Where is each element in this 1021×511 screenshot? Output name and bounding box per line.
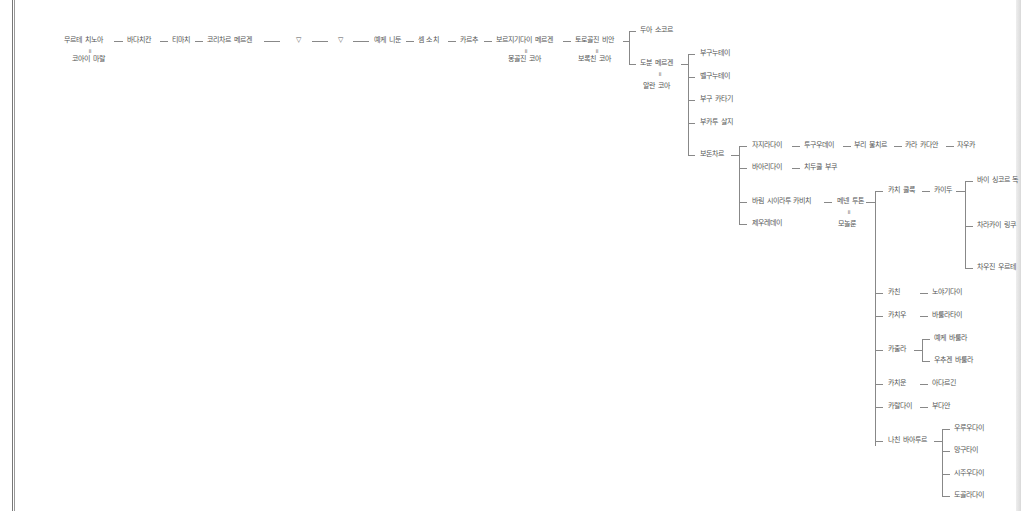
person-buri-bulchir: 부리 불치르 <box>854 141 887 150</box>
connector <box>914 350 922 351</box>
person-spouse-monolun: 모놀룬 <box>838 220 856 229</box>
person-dogoladai: 도골라다이 <box>954 491 985 500</box>
connector <box>922 339 930 340</box>
connector <box>739 168 747 169</box>
connector <box>965 226 973 227</box>
marriage-symbol: ॥ <box>847 208 851 215</box>
connector <box>484 41 492 42</box>
page-edge <box>1016 0 1021 511</box>
person-khara-khadaan: 카라 카다안 <box>905 141 938 150</box>
connector <box>792 146 800 147</box>
connector <box>731 155 739 156</box>
connector <box>965 181 973 182</box>
connector <box>920 293 928 294</box>
connector <box>956 191 965 192</box>
connector <box>824 202 832 203</box>
connector <box>920 407 928 408</box>
person-charakhai-lingqu: 차라카이 링쿠 <box>977 221 1016 230</box>
person-menen-tudun: 메넨 투톤 <box>837 197 864 206</box>
connector <box>934 441 942 442</box>
connector <box>942 474 950 475</box>
person-khachiun: 카치운 <box>888 379 906 388</box>
person-sem-sochi: 셈 소치 <box>418 36 439 45</box>
connector <box>114 41 123 42</box>
connector <box>792 168 800 169</box>
bracket <box>688 54 689 155</box>
bracket <box>629 31 630 64</box>
person-karchu: 카르추 <box>460 36 478 45</box>
person-shijuudai: 시주우다이 <box>954 469 985 478</box>
person-jaukha: 자우카 <box>957 141 975 150</box>
connector <box>875 384 883 385</box>
person-chidukhul-bukha: 치두쿨 부쿠 <box>804 163 837 172</box>
person-adargin: 아다르긴 <box>932 379 956 388</box>
connector <box>353 41 369 42</box>
bracket <box>922 339 923 361</box>
person-bugu-khatagi: 부구 카타기 <box>700 95 733 104</box>
connector <box>942 451 950 452</box>
person-korichar-mergen: 코리차르 메르겐 <box>207 36 252 45</box>
person-bai-shingkhor-dogshin: 바이 싱코르 독 <box>977 176 1018 185</box>
person-belgunutei: 벨구누테이 <box>700 72 731 81</box>
person-bukhatu-salji: 부카투 살지 <box>700 118 733 127</box>
connector <box>739 202 747 203</box>
person-khachula: 카출라 <box>888 345 906 354</box>
person-nachin-baatur: 나친 바아투르 <box>888 436 927 445</box>
person-khachiu: 카치우 <box>888 311 906 320</box>
person-dobun-mergen: 도분 메르겐 <box>640 59 673 68</box>
person-murte-chinoa: 무르테 치노아 <box>64 36 103 45</box>
connector <box>688 54 695 55</box>
person-dua-sokhor: 두아 소코르 <box>640 26 673 35</box>
connector <box>160 41 168 42</box>
person-tuguudai: 투구우데이 <box>804 141 835 150</box>
person-uchugen-barula: 우추겐 바룰라 <box>934 356 973 365</box>
person-spouse-alan-koa: 알란 코아 <box>643 82 670 91</box>
connector <box>312 41 328 42</box>
connector <box>866 202 875 203</box>
connector <box>629 31 636 32</box>
connector <box>563 41 571 42</box>
connector <box>681 64 688 65</box>
connector <box>264 41 280 42</box>
connector <box>965 268 973 269</box>
person-uruudai: 우루우다이 <box>954 424 985 433</box>
connector <box>942 496 950 497</box>
person-budaan: 부다안 <box>932 402 950 411</box>
connector <box>688 123 695 124</box>
connector <box>875 407 883 408</box>
connector <box>946 146 954 147</box>
person-yeke-nidun: 예케 니둔 <box>374 36 401 45</box>
generation-gap-marker: ▽ <box>338 36 343 45</box>
person-bodonchar: 보돈차르 <box>700 150 724 159</box>
person-spouse-koai-maral: 코아이 마랄 <box>72 55 105 64</box>
connector <box>922 361 930 362</box>
page-binding-line <box>12 0 15 511</box>
connector <box>875 293 883 294</box>
person-spouse-borokchin-koa: 보록친 코아 <box>578 55 611 64</box>
person-torogoljin-bayan: 토로골진 비안 <box>575 36 614 45</box>
person-bugunutei: 부구누테이 <box>700 49 731 58</box>
person-barim-shiiratu-khabichi: 바림 시이라투 카비치 <box>752 197 812 206</box>
connector <box>922 191 930 192</box>
person-khaidu: 카이두 <box>934 186 952 195</box>
connector <box>688 155 695 156</box>
person-chaujin-urtegei: 차우진 우르테 <box>977 263 1016 272</box>
connector <box>920 316 928 317</box>
connector <box>629 64 636 65</box>
connector <box>875 316 883 317</box>
bracket <box>965 181 966 268</box>
person-noyagidai: 노야기다이 <box>932 288 963 297</box>
connector <box>739 146 747 147</box>
person-yeke-barula: 예케 바룰라 <box>934 334 967 343</box>
connector <box>739 224 747 225</box>
connector <box>942 429 950 430</box>
connector <box>688 100 695 101</box>
person-borjigidai-mergen: 보르지기다이 메르겐 <box>496 36 553 45</box>
connector <box>195 41 203 42</box>
bracket <box>739 146 740 224</box>
person-khachi-kuluk: 카치 쿨룩 <box>888 186 915 195</box>
connector <box>875 441 883 442</box>
person-badachikan: 바다치칸 <box>127 36 151 45</box>
connector <box>843 146 851 147</box>
person-kharaldai: 카랄다이 <box>888 402 912 411</box>
